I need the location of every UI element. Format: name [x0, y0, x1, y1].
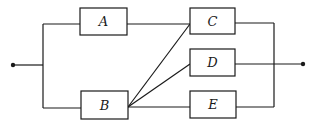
component-a-label: A — [98, 14, 108, 29]
component-d-label: D — [206, 55, 218, 70]
component-e: E — [190, 91, 236, 118]
component-c: C — [190, 8, 235, 34]
component-c-label: C — [208, 14, 218, 29]
component-d: D — [190, 49, 235, 76]
reliability-diagram: A B C D E — [0, 0, 313, 127]
component-b: B — [81, 91, 128, 119]
component-e-label: E — [207, 97, 218, 112]
wire-b-c — [128, 24, 190, 107]
component-b-label: B — [99, 98, 110, 113]
output-terminal — [301, 62, 305, 66]
wire-b-d — [128, 64, 190, 107]
component-a: A — [80, 8, 127, 35]
